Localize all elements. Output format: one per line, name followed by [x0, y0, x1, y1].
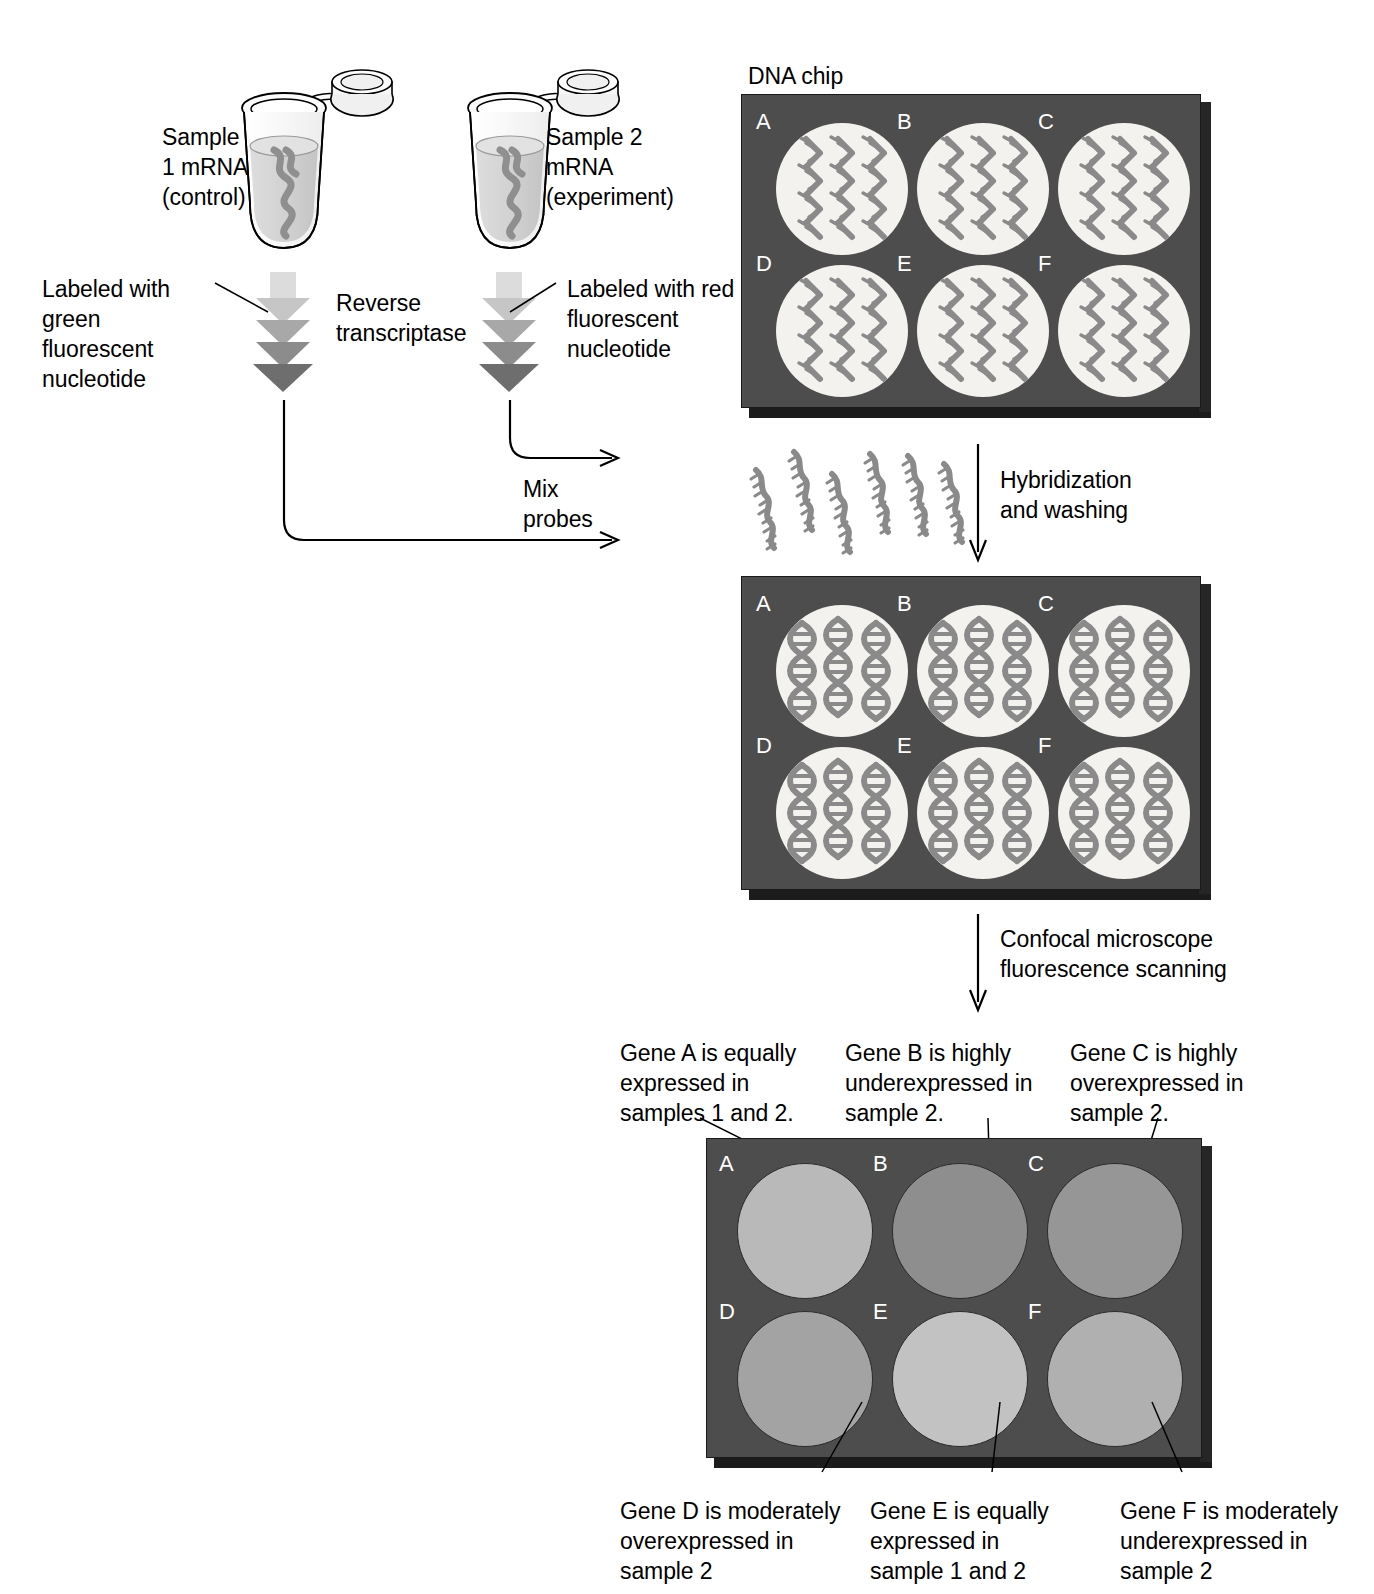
scanned-spot-a	[737, 1163, 873, 1299]
scan-well-label-d: D	[719, 1301, 735, 1323]
probe-chip-face: A B C D E F	[741, 94, 1201, 408]
scanned-chip-face: A B C D E F	[706, 1138, 1202, 1458]
scan-well-label-c: C	[1028, 1153, 1044, 1175]
hyb-well-label-f: F	[1038, 735, 1051, 757]
probe-well-a	[776, 123, 908, 255]
hyb-well-label-d: D	[756, 735, 772, 757]
callout-gene-a: Gene A is equally expressed in samples 1…	[620, 1038, 798, 1128]
green-dye-caption: Labeled with green fluorescent nucleotid…	[42, 274, 232, 394]
sample-1-label: Sample 1 mRNA (control)	[162, 122, 312, 212]
hyb-well-c	[1058, 605, 1190, 737]
probe-well-f	[1058, 265, 1190, 397]
probe-well-label-d: D	[756, 253, 772, 275]
scanned-spot-b	[892, 1163, 1028, 1299]
hyb-well-label-e: E	[897, 735, 912, 757]
probe-well-label-f: F	[1038, 253, 1051, 275]
diagram-canvas: Sample 1 mRNA (control) Sample 2 mRNA (e…	[0, 0, 1374, 1594]
hyb-well-a	[776, 605, 908, 737]
mix-probes-label: Mix probes	[523, 474, 633, 534]
hybridized-chip: A B C D E F	[741, 576, 1211, 900]
free-probe-strands	[752, 444, 982, 554]
probe-well-label-c: C	[1038, 111, 1054, 133]
scan-well-label-e: E	[873, 1301, 888, 1323]
probe-well-c	[1058, 123, 1190, 255]
hyb-well-label-c: C	[1038, 593, 1054, 615]
callout-gene-e: Gene E is equally expressed in sample 1 …	[870, 1496, 1070, 1586]
hyb-well-label-b: B	[897, 593, 912, 615]
probe-well-d	[776, 265, 908, 397]
probe-chip: A B C D E F	[741, 94, 1211, 418]
scanned-spot-f	[1047, 1311, 1183, 1447]
scanned-spot-c	[1047, 1163, 1183, 1299]
sample-1-gradient-arrow	[248, 272, 328, 392]
hyb-well-b	[917, 605, 1049, 737]
sample-2-label: Sample 2 mRNA (experiment)	[546, 122, 736, 212]
hybridization-label: Hybridization and washing	[1000, 465, 1220, 525]
hybridized-chip-face: A B C D E F	[741, 576, 1201, 890]
scanned-spot-e	[892, 1311, 1028, 1447]
callout-gene-b: Gene B is highly underexpressed in sampl…	[845, 1038, 1035, 1128]
scan-well-label-f: F	[1028, 1301, 1041, 1323]
hyb-well-e	[917, 747, 1049, 879]
dna-chip-title: DNA chip	[748, 61, 843, 91]
probe-well-label-b: B	[897, 111, 912, 133]
scan-well-label-b: B	[873, 1153, 888, 1175]
scanned-chip: A B C D E F	[706, 1138, 1212, 1468]
hyb-well-f	[1058, 747, 1190, 879]
callout-gene-d: Gene D is moderately overexpressed in sa…	[620, 1496, 850, 1586]
hyb-well-label-a: A	[756, 593, 771, 615]
hyb-well-d	[776, 747, 908, 879]
scanned-spot-d	[737, 1311, 873, 1447]
probe-well-e	[917, 265, 1049, 397]
callout-gene-f: Gene F is moderately underexpressed in s…	[1120, 1496, 1360, 1586]
scan-well-label-a: A	[719, 1153, 734, 1175]
callout-gene-c: Gene C is highly overexpressed in sample…	[1070, 1038, 1260, 1128]
probe-well-label-e: E	[897, 253, 912, 275]
sample-2-flow-arrow	[510, 400, 612, 458]
probe-well-b	[917, 123, 1049, 255]
probe-well-label-a: A	[756, 111, 771, 133]
reverse-transcriptase-label: Reverse transcriptase	[336, 288, 496, 348]
scanning-label: Confocal microscope fluorescence scannin…	[1000, 924, 1290, 984]
leader-red	[510, 283, 556, 312]
